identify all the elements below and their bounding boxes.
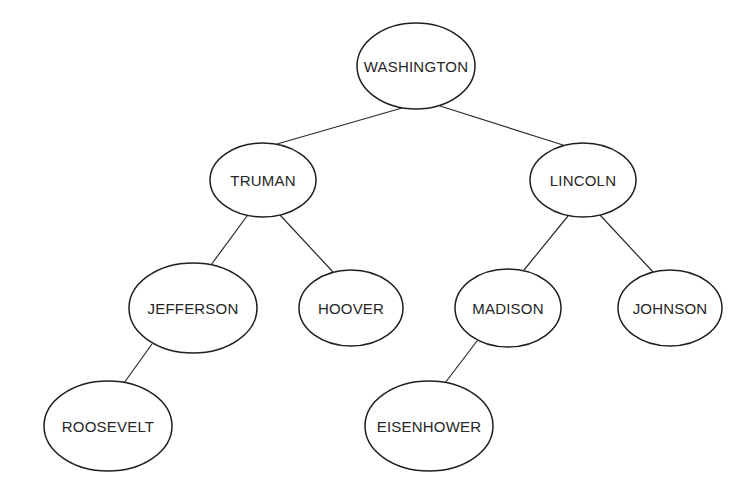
node-label: JOHNSON xyxy=(633,300,708,317)
node-roosevelt: ROOSEVELT xyxy=(44,381,172,471)
edge-truman-hoover xyxy=(280,215,333,272)
node-eisenhower: EISENHOWER xyxy=(365,381,493,471)
edge-madison-eisenhower xyxy=(445,341,477,383)
edge-washington-lincoln xyxy=(440,106,563,145)
node-johnson: JOHNSON xyxy=(618,270,722,346)
tree-diagram: WASHINGTONTRUMANLINCOLNJEFFERSONHOOVERMA… xyxy=(0,0,749,502)
node-label: EISENHOWER xyxy=(377,418,482,435)
node-label: MADISON xyxy=(472,300,543,317)
node-label: WASHINGTON xyxy=(364,58,469,75)
edge-lincoln-johnson xyxy=(600,215,653,272)
node-label: LINCOLN xyxy=(550,172,616,189)
node-madison: MADISON xyxy=(455,269,561,347)
node-lincoln: LINCOLN xyxy=(530,143,636,217)
node-label: TRUMAN xyxy=(230,172,295,189)
edge-truman-jefferson xyxy=(211,216,247,265)
node-hoover: HOOVER xyxy=(299,270,403,346)
edge-jefferson-roosevelt xyxy=(124,344,152,383)
nodes-layer: WASHINGTONTRUMANLINCOLNJEFFERSONHOOVERMA… xyxy=(44,23,722,471)
node-jefferson: JEFFERSON xyxy=(129,263,257,353)
node-washington: WASHINGTON xyxy=(357,23,475,109)
edge-lincoln-madison xyxy=(524,216,568,270)
node-truman: TRUMAN xyxy=(210,143,316,217)
node-label: JEFFERSON xyxy=(148,300,239,317)
edge-washington-truman xyxy=(277,108,402,144)
node-label: ROOSEVELT xyxy=(62,418,154,435)
node-label: HOOVER xyxy=(318,300,384,317)
